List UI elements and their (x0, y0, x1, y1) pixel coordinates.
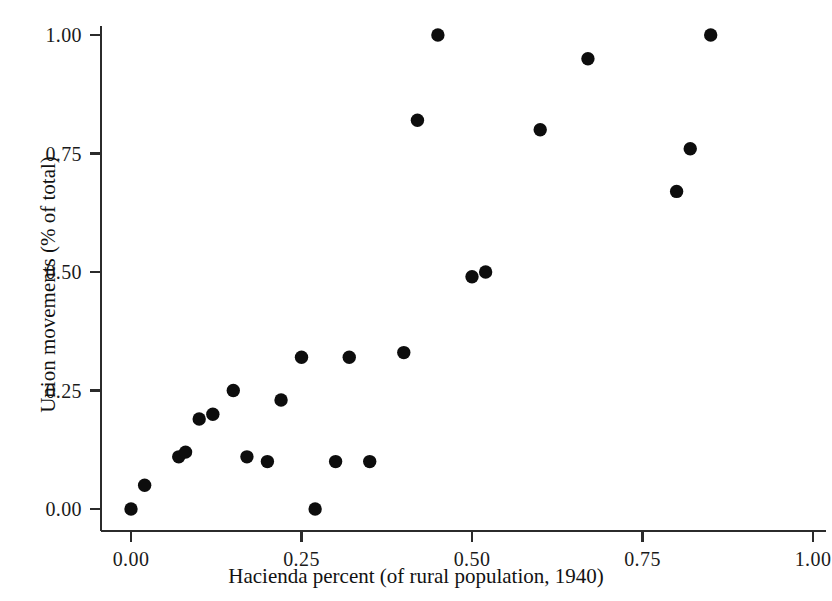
axis-lines (101, 26, 826, 531)
data-point (240, 450, 253, 463)
x-axis-title: Hacienda percent (of rural population, 1… (0, 564, 832, 589)
data-point (274, 393, 287, 406)
data-point (431, 28, 444, 41)
x-axis-ticks (131, 531, 813, 542)
data-point (534, 123, 547, 136)
data-point (308, 502, 321, 515)
data-point (684, 142, 697, 155)
data-point (329, 455, 342, 468)
data-point (465, 270, 478, 283)
data-point (179, 445, 192, 458)
data-point (295, 351, 308, 364)
data-point (363, 455, 376, 468)
data-point (397, 346, 410, 359)
scatter-plot-figure: 0.000.250.500.751.00 0.000.250.500.751.0… (0, 0, 832, 601)
data-point (479, 265, 492, 278)
y-axis-title: Union movements (% of total) (36, 25, 61, 545)
data-point (193, 412, 206, 425)
plot-canvas (0, 0, 832, 601)
data-point (261, 455, 274, 468)
y-axis-ticks (90, 35, 101, 509)
data-point (206, 408, 219, 421)
data-point (704, 28, 717, 41)
data-point (124, 502, 137, 515)
data-point (411, 114, 424, 127)
data-point (227, 384, 240, 397)
data-point (343, 351, 356, 364)
data-point (581, 52, 594, 65)
data-points-group (124, 28, 717, 515)
data-point (670, 185, 683, 198)
data-point (138, 479, 151, 492)
